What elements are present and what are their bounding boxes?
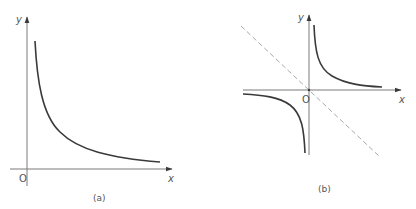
panel-b: y O x (b) (241, 12, 405, 194)
panel-a-origin-label: O (19, 173, 27, 184)
panel-b-origin-label: O (302, 94, 310, 105)
panel-a-x-label: x (167, 173, 174, 184)
hyperbola-figure: y O x (a) y O x (b) (0, 0, 416, 209)
panel-b-y-label: y (297, 12, 305, 23)
panel-b-hyperbola-branch-third-quadrant (243, 94, 305, 153)
panel-a-caption: (a) (93, 193, 106, 203)
panel-b-caption: (b) (318, 184, 331, 194)
panel-a: y O x (a) (10, 14, 174, 203)
panel-b-origin-point (308, 89, 310, 91)
panel-a-hyperbola-curve (35, 41, 160, 162)
panel-b-hyperbola-branch-first-quadrant (314, 25, 382, 87)
panel-b-x-label: x (398, 94, 405, 105)
panel-b-dashed-asymptote-line (241, 26, 380, 157)
panel-a-y-label: y (15, 14, 23, 25)
